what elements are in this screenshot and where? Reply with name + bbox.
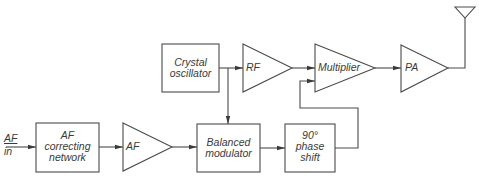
antenna-icon	[455, 7, 475, 18]
multiplier-label: Multiplier	[318, 62, 368, 73]
balanced-modulator-label: Balanced modulator	[197, 137, 260, 159]
pa-label: PA	[405, 62, 425, 73]
crystal-oscillator-label: Crystal oscillator	[162, 57, 219, 79]
pa-to-antenna-line	[448, 18, 465, 68]
rf-amplifier-label: RF	[246, 62, 266, 73]
phase-shift-label: 90° phase shift	[285, 130, 335, 163]
af-correcting-network-label: AF correcting network	[36, 130, 99, 163]
input-label: AF in	[4, 132, 24, 158]
af-amplifier-label: AF	[126, 141, 146, 152]
